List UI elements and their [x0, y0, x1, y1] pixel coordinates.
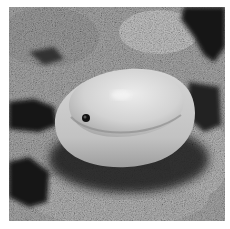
- photo-canvas: [9, 7, 225, 221]
- shell-highlight: [111, 90, 131, 100]
- cowrie-shell-photo: Grayscale photograph of a smooth, egg-sh…: [9, 7, 225, 221]
